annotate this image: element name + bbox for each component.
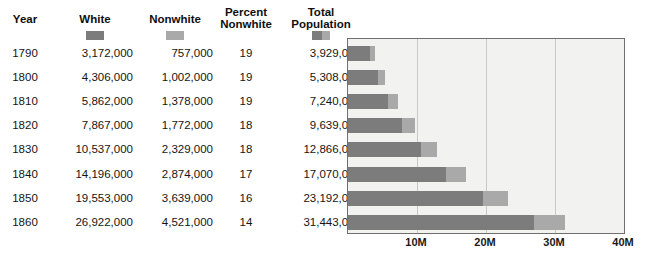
table-row: 184014,196,0002,874,0001717,070,000: [0, 167, 340, 191]
x-tick-label-40M: 40M: [612, 236, 633, 248]
legend-swatch-total-population: [312, 31, 330, 40]
cell-percent-nonwhite: 18: [213, 142, 279, 156]
cell-white: 3,172,000: [53, 46, 133, 60]
stacked-bar-chart-plot-area: [347, 38, 625, 234]
cell-percent-nonwhite: 19: [213, 46, 279, 60]
bar-row-1830: [348, 139, 624, 163]
cell-year: 1850: [2, 191, 48, 205]
cell-white: 26,922,000: [53, 215, 133, 229]
cell-nonwhite: 2,329,000: [139, 142, 213, 156]
bar-segment-nonwhite-1830: [421, 142, 437, 157]
cell-year: 1860: [2, 215, 48, 229]
cell-white: 14,196,000: [53, 167, 133, 181]
x-tick-label-10M: 10M: [405, 236, 426, 248]
column-header-percent-nonwhite-line2: Nonwhite: [213, 18, 279, 30]
population-table-chart-figure: Year White Nonwhite Percent Nonwhite Tot…: [0, 0, 649, 266]
bar-row-1850: [348, 188, 624, 212]
bar-row-1800: [348, 67, 624, 91]
cell-year: 1810: [2, 94, 48, 108]
x-axis-tick-labels: 10M20M30M40M: [347, 236, 625, 256]
table-row: 18105,862,0001,378,000197,240,000: [0, 94, 340, 118]
table-row: 18004,306,0001,002,000195,308,000: [0, 70, 340, 94]
cell-nonwhite: 1,002,000: [139, 70, 213, 84]
column-header-year: Year: [2, 13, 48, 25]
bar-segment-white-1850: [348, 191, 483, 206]
cell-percent-nonwhite: 16: [213, 191, 279, 205]
cell-percent-nonwhite: 14: [213, 215, 279, 229]
cell-nonwhite: 3,639,000: [139, 191, 213, 205]
bar-segment-white-1800: [348, 70, 378, 85]
bar-segment-nonwhite-1820: [402, 118, 414, 133]
table-row: 183010,537,0002,329,0001812,866,000: [0, 142, 340, 166]
x-tick-label-30M: 30M: [543, 236, 564, 248]
cell-year: 1830: [2, 142, 48, 156]
cell-white: 7,867,000: [53, 118, 133, 132]
bar-row-1810: [348, 91, 624, 115]
cell-white: 10,537,000: [53, 142, 133, 156]
column-header-total-line2: Population: [281, 18, 361, 30]
cell-white: 19,553,000: [53, 191, 133, 205]
cell-year: 1820: [2, 118, 48, 132]
cell-nonwhite: 1,772,000: [139, 118, 213, 132]
bar-segment-white-1790: [348, 46, 370, 61]
cell-nonwhite: 757,000: [139, 46, 213, 60]
legend-swatch-white: [86, 31, 104, 40]
legend-swatch-nonwhite: [166, 31, 184, 40]
cell-percent-nonwhite: 18: [213, 118, 279, 132]
table-row: 185019,553,0003,639,0001623,192,000: [0, 191, 340, 215]
cell-white: 5,862,000: [53, 94, 133, 108]
cell-year: 1800: [2, 70, 48, 84]
bar-segment-white-1810: [348, 94, 388, 109]
cell-white: 4,306,000: [53, 70, 133, 84]
bar-segment-white-1820: [348, 118, 402, 133]
bar-segment-nonwhite-1860: [534, 215, 565, 230]
cell-percent-nonwhite: 19: [213, 70, 279, 84]
table-header-row: Year White Nonwhite Percent Nonwhite Tot…: [0, 0, 340, 44]
bar-segment-nonwhite-1800: [378, 70, 385, 85]
column-header-percent-nonwhite: Percent Nonwhite: [213, 6, 279, 30]
cell-percent-nonwhite: 19: [213, 94, 279, 108]
column-header-nonwhite: Nonwhite: [137, 13, 213, 25]
bar-row-1790: [348, 43, 624, 67]
bar-segment-nonwhite-1790: [370, 46, 375, 61]
bar-segment-white-1860: [348, 215, 534, 230]
cell-percent-nonwhite: 17: [213, 167, 279, 181]
table-row: 18207,867,0001,772,000189,639,000: [0, 118, 340, 142]
bar-segment-white-1830: [348, 142, 421, 157]
bar-segment-nonwhite-1840: [446, 167, 466, 182]
table-row: 186026,922,0004,521,0001431,443,000: [0, 215, 340, 239]
bar-row-1820: [348, 115, 624, 139]
bar-row-1840: [348, 164, 624, 188]
cell-nonwhite: 4,521,000: [139, 215, 213, 229]
column-header-white: White: [57, 13, 133, 25]
cell-year: 1790: [2, 46, 48, 60]
bar-segment-white-1840: [348, 167, 446, 182]
cell-nonwhite: 1,378,000: [139, 94, 213, 108]
bar-segment-nonwhite-1850: [483, 191, 508, 206]
column-header-total-population: Total Population: [281, 6, 361, 30]
table-row: 17903,172,000757,000193,929,000: [0, 46, 340, 70]
bar-row-1860: [348, 212, 624, 236]
data-table: Year White Nonwhite Percent Nonwhite Tot…: [0, 0, 340, 266]
column-header-total-line1: Total: [281, 6, 361, 18]
cell-nonwhite: 2,874,000: [139, 167, 213, 181]
cell-year: 1840: [2, 167, 48, 181]
column-header-percent-nonwhite-line1: Percent: [213, 6, 279, 18]
x-tick-label-20M: 20M: [474, 236, 495, 248]
bar-segment-nonwhite-1810: [388, 94, 398, 109]
